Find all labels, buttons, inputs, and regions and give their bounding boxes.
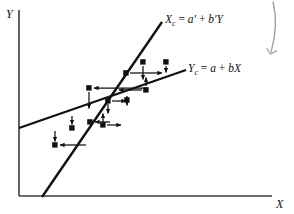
data-point [87, 119, 92, 124]
data-point [163, 59, 168, 64]
data-point [69, 125, 74, 130]
hand-drawn-down-arrow [271, 2, 275, 52]
equation-label-xc: Xc = a' + b'Y [165, 14, 223, 28]
data-point [100, 122, 105, 127]
down-arrow-icon [271, 2, 275, 52]
xc-regression-line [42, 22, 162, 197]
data-point [86, 85, 91, 90]
axis-label-y: Y [6, 8, 13, 20]
equation-label-yc: Yc = a + bX [188, 63, 241, 77]
axes-group [19, 10, 272, 196]
regression-lines-group [19, 22, 186, 197]
data-point [143, 87, 148, 92]
data-point [123, 70, 128, 75]
data-point [105, 98, 110, 103]
data-point [140, 59, 145, 64]
data-point [124, 97, 129, 102]
figure-canvas [0, 0, 294, 214]
axis-label-x: X [276, 198, 283, 210]
regression-figure: Y X Xc = a' + b'Y Yc = a + bX [0, 0, 294, 214]
data-point [52, 142, 57, 147]
